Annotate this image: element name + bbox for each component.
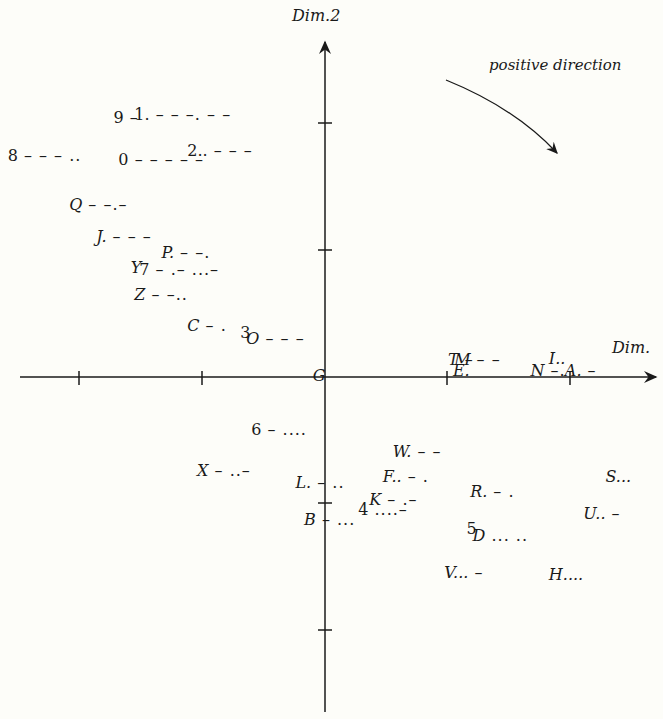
point-code: O: [246, 329, 259, 348]
point-code: J.: [96, 227, 106, 246]
point-code: C: [187, 316, 199, 335]
point-label: X – ..–: [197, 463, 251, 479]
point-code: 2..: [187, 141, 207, 160]
point-label: Q – –.–: [69, 197, 127, 213]
point-code: B: [304, 510, 316, 529]
point-label: H....: [549, 567, 583, 583]
morse-pattern: – –..: [145, 285, 187, 304]
morse-pattern: – ....: [261, 420, 307, 439]
point-code: D: [473, 526, 486, 545]
point-label: 7 – .– ...–: [139, 262, 219, 278]
morse-pattern: – – –: [259, 329, 304, 348]
point-code: W.: [393, 442, 412, 461]
morse-pattern: – – – ..: [18, 146, 82, 165]
point-code: L.: [295, 473, 311, 492]
morse-pattern: – .: [402, 467, 429, 486]
point-label: 1. – – –. – –: [134, 107, 231, 123]
point-label: G: [313, 368, 326, 384]
point-label: A. –: [565, 363, 597, 379]
point-label: W. – –: [393, 444, 442, 460]
morse-pattern: – –: [411, 442, 441, 461]
point-code: Q: [69, 195, 82, 214]
point-label: L. – ..: [295, 475, 344, 491]
morse-pattern: – – –. – –: [150, 105, 232, 124]
morse-pattern: –: [581, 361, 596, 380]
morse-pattern: ... ..: [485, 526, 528, 545]
morse-pattern: – – –: [106, 227, 151, 246]
morse-pattern: – –: [471, 350, 501, 369]
x-axis-title: Dim.: [612, 338, 650, 357]
point-code: Z: [134, 285, 145, 304]
morse-pattern: –.: [544, 361, 565, 380]
point-label: 2.. – – –: [187, 143, 253, 159]
point-label: S...: [605, 469, 631, 485]
point-code: F..: [383, 467, 402, 486]
point-label: V... –: [444, 565, 483, 581]
point-code: V...: [444, 563, 468, 582]
rotation-arrow-icon: [446, 80, 557, 153]
point-code: A.: [565, 361, 582, 380]
point-code: N: [530, 361, 544, 380]
morse-pattern: – ..: [311, 473, 344, 492]
y-axis-title: Dim.2: [292, 6, 340, 25]
point-label: C – .: [187, 318, 227, 334]
point-code: 9: [113, 108, 123, 127]
point-label: D ... ..: [473, 528, 528, 544]
point-code: E.: [453, 361, 470, 380]
positive-direction-label: positive direction: [489, 56, 621, 74]
point-code: 7: [139, 260, 149, 279]
point-code: P.: [161, 243, 174, 262]
morse-pattern: – .– ...–: [149, 260, 219, 279]
morse-pattern: – –.: [174, 243, 210, 262]
point-code: U..: [583, 504, 605, 523]
point-code: 0: [118, 150, 128, 169]
point-label: 8 – – – ..: [8, 148, 82, 164]
morse-pattern: ....–: [368, 500, 407, 519]
point-label: B – ...: [304, 512, 355, 528]
morse-pattern: – –.–: [82, 195, 127, 214]
point-label: 4 ....–: [358, 502, 408, 518]
point-label: 6 – ....: [251, 422, 307, 438]
point-code: S...: [605, 467, 631, 486]
morse-pattern: – .: [199, 316, 226, 335]
point-label: E.: [453, 363, 470, 379]
morse-pattern: – .: [487, 482, 514, 501]
point-code: 1.: [134, 105, 149, 124]
point-label: U.. –: [583, 506, 620, 522]
point-code: G: [313, 366, 326, 385]
morse-pattern: – ...: [316, 510, 355, 529]
morse-pattern: – ..–: [208, 461, 250, 480]
point-label: N –.: [530, 363, 565, 379]
point-label: Z – –..: [134, 287, 187, 303]
point-code: R.: [470, 482, 487, 501]
point-code: 6: [251, 420, 261, 439]
point-code: H....: [549, 565, 583, 584]
point-code: 8: [8, 146, 18, 165]
morse-pattern: –: [605, 504, 620, 523]
point-code: 4: [358, 500, 368, 519]
point-label: P. – –.: [161, 245, 210, 261]
point-code: X: [197, 461, 208, 480]
morse-pattern: –: [468, 563, 483, 582]
morse-pattern: – – –: [208, 141, 253, 160]
point-label: J. – – –: [96, 229, 152, 245]
point-label: O – – –: [246, 331, 304, 347]
point-label: F.. – .: [383, 469, 429, 485]
point-label: R. – .: [470, 484, 514, 500]
